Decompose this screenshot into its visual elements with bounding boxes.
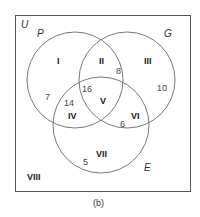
region-i-label: I: [57, 56, 60, 66]
region-v-label: V: [100, 96, 106, 106]
region-iii-label: III: [144, 56, 152, 66]
universe-label: U: [21, 19, 29, 30]
region-i-count: 7: [45, 92, 50, 102]
set-g-label: G: [164, 28, 172, 39]
region-ii-label: II: [99, 56, 104, 66]
region-iii-count: 10: [157, 83, 167, 93]
region-ii-count: 8: [116, 66, 121, 76]
region-iv-label: IV: [68, 111, 77, 121]
set-g-circle: [79, 32, 175, 128]
region-vi-label: VI: [131, 111, 140, 121]
venn-diagram: U P G E I II III IV V VI VII VIII 7 8 10…: [0, 0, 200, 217]
figure-caption: (b): [93, 198, 104, 208]
set-e-label: E: [144, 162, 151, 173]
region-v-count: 16: [82, 84, 92, 94]
set-p-label: P: [37, 28, 44, 39]
region-vii-label: VII: [96, 149, 107, 159]
region-vii-count: 5: [83, 157, 88, 167]
region-vi-count: 6: [120, 119, 125, 129]
region-viii-label: VIII: [27, 172, 41, 182]
region-iv-count: 14: [64, 98, 74, 108]
